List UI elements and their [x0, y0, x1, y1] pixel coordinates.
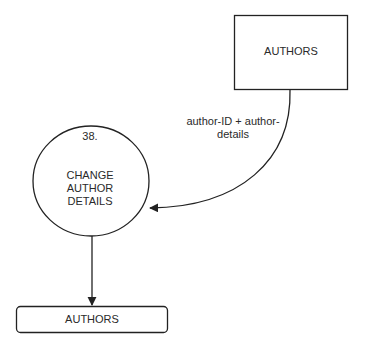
- flow-label: author-ID + author- details: [178, 115, 288, 141]
- external-entity-label: AUTHORS: [234, 45, 348, 58]
- flow-label-line-2: details: [178, 128, 288, 141]
- process-label-line-3: DETAILS: [40, 195, 140, 208]
- flow-label-line-1: author-ID + author-: [178, 115, 288, 128]
- process-number: 38.: [60, 130, 120, 143]
- data-store-label: AUTHORS: [16, 313, 168, 326]
- process-label-line-2: AUTHOR: [40, 182, 140, 195]
- process-label: CHANGE AUTHOR DETAILS: [40, 169, 140, 208]
- flow-entity-to-process[interactable]: [150, 90, 290, 208]
- process-label-line-1: CHANGE: [40, 169, 140, 182]
